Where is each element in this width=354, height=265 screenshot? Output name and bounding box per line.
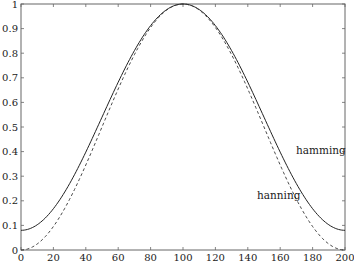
plot-frame <box>21 4 345 250</box>
x-tick-label: 60 <box>112 252 125 263</box>
x-tick-label: 200 <box>335 252 354 263</box>
x-tick-label: 80 <box>144 252 157 263</box>
x-tick-label: 20 <box>47 252 60 263</box>
x-tick-label: 160 <box>271 252 290 263</box>
y-tick-label: 0.6 <box>2 97 18 108</box>
y-tick-label: 0.1 <box>2 220 18 231</box>
hanning-label: hanning <box>257 189 301 201</box>
axis-ticks <box>21 4 345 250</box>
y-tick-label: 0.9 <box>2 23 18 34</box>
y-tick-label: 0.7 <box>2 72 18 83</box>
x-tick-label: 40 <box>79 252 92 263</box>
y-tick-label: 0.5 <box>2 122 18 133</box>
y-tick-label: 1 <box>12 0 18 10</box>
x-tick-label: 180 <box>303 252 322 263</box>
window-comparison-chart: 02040608010012014016018020000.10.20.30.4… <box>0 0 354 265</box>
y-tick-label: 0.8 <box>2 48 18 59</box>
x-tick-label: 120 <box>206 252 225 263</box>
hamming-label: hamming <box>296 144 346 156</box>
x-tick-label: 0 <box>18 252 24 263</box>
hanning-curve <box>21 4 345 250</box>
y-tick-label: 0 <box>12 245 18 256</box>
x-tick-label: 100 <box>173 252 192 263</box>
y-tick-label: 0.2 <box>2 195 18 206</box>
x-tick-label: 140 <box>238 252 257 263</box>
y-tick-label: 0.4 <box>2 146 18 157</box>
axis-tick-labels: 02040608010012014016018020000.10.20.30.4… <box>2 0 354 263</box>
y-tick-label: 0.3 <box>2 171 18 182</box>
